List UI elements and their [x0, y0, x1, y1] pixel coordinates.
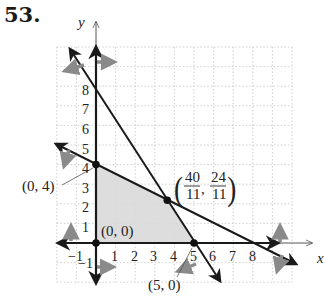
svg-text:,: , [201, 181, 205, 197]
label-vertex-0-0: (0, 0) [101, 223, 134, 240]
svg-text:8: 8 [82, 83, 89, 98]
svg-text:7: 7 [229, 249, 236, 264]
svg-text:8: 8 [249, 249, 256, 264]
svg-text:2: 2 [82, 200, 89, 215]
svg-text:6: 6 [209, 249, 216, 264]
x-axis-label: x [316, 250, 324, 266]
svg-text:1: 1 [111, 249, 118, 264]
svg-text:1: 1 [82, 220, 89, 235]
svg-text:3: 3 [150, 249, 157, 264]
svg-text:−1: −1 [78, 256, 93, 271]
svg-text:7: 7 [82, 102, 89, 117]
svg-text:24: 24 [211, 169, 227, 185]
vertex-intersection [164, 196, 172, 204]
label-vertex-0-4: (0, 4) [22, 178, 55, 195]
svg-text:4: 4 [82, 161, 89, 176]
vertex-5-0 [190, 239, 198, 247]
svg-text:(: ( [174, 170, 183, 208]
vertex-0-0 [92, 239, 100, 247]
label-vertex-intersection: ( 40 11 , 24 11 ) [174, 169, 236, 208]
svg-text:4: 4 [170, 249, 177, 264]
svg-text:40: 40 [185, 169, 200, 185]
coordinate-plane: −1 1 2 3 4 5 6 7 8 −1 1 2 3 4 5 6 7 8 y … [0, 0, 325, 299]
svg-text:11: 11 [212, 186, 226, 202]
svg-text:5: 5 [190, 249, 197, 264]
svg-text:): ) [227, 170, 236, 208]
vertex-0-4 [92, 161, 100, 169]
svg-text:2: 2 [131, 249, 138, 264]
label-vertex-5-0: (5, 0) [148, 277, 181, 294]
svg-text:5: 5 [82, 142, 89, 157]
svg-text:11: 11 [186, 186, 200, 202]
svg-text:6: 6 [82, 122, 89, 137]
y-axis-label: y [76, 14, 85, 30]
svg-text:3: 3 [82, 181, 89, 196]
